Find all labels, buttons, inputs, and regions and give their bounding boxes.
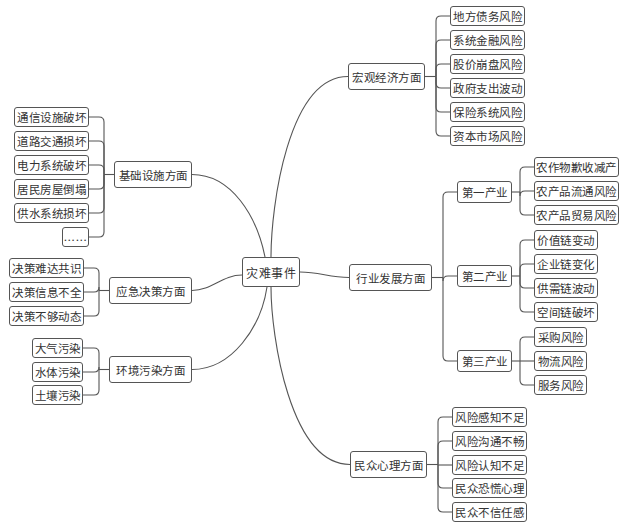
branch-macro-economy[interactable]: 宏观经济方面: [348, 63, 425, 90]
sub-branch-node[interactable]: 第三产业: [457, 350, 512, 372]
leaf-node[interactable]: 居民房屋倒塌: [14, 179, 89, 199]
leaf-node[interactable]: 保险系统风险: [450, 102, 525, 122]
leaf-node[interactable]: 电力系统破坏: [14, 155, 89, 175]
leaf-node[interactable]: 采购风险: [534, 327, 587, 347]
leaf-node[interactable]: 水体污染: [32, 362, 83, 382]
leaf-node[interactable]: 系统金融风险: [450, 30, 525, 50]
branch-public-psychology[interactable]: 民众心理方面: [350, 451, 427, 478]
leaf-node[interactable]: 决策信息不全: [9, 282, 84, 302]
leaf-node[interactable]: 服务风险: [534, 375, 587, 395]
leaf-node[interactable]: 农作物歉收减产: [534, 157, 619, 177]
leaf-node[interactable]: ……: [62, 227, 89, 247]
sub-branch-node[interactable]: 第二产业: [457, 265, 512, 287]
leaf-node[interactable]: 风险认知不足: [452, 455, 527, 475]
leaf-node[interactable]: 政府支出波动: [450, 78, 525, 98]
leaf-node[interactable]: 物流风险: [534, 351, 587, 371]
leaf-node[interactable]: 供水系统损坏: [14, 203, 89, 223]
sub-branch-node[interactable]: 第一产业: [457, 181, 512, 203]
leaf-node[interactable]: 决策难达共识: [9, 258, 84, 278]
leaf-node[interactable]: 大气污染: [32, 338, 83, 358]
leaf-node[interactable]: 农产品贸易风险: [534, 205, 619, 225]
leaf-node[interactable]: 地方债务风险: [450, 6, 525, 26]
leaf-node[interactable]: 企业链变化: [534, 254, 598, 274]
leaf-node[interactable]: 供需链波动: [534, 278, 598, 298]
leaf-node[interactable]: 民众不信任感: [452, 502, 527, 522]
branch-industry[interactable]: 行业发展方面: [349, 264, 432, 291]
leaf-node[interactable]: 空间链破坏: [534, 302, 598, 322]
leaf-node[interactable]: 风险沟通不畅: [452, 431, 527, 451]
branch-environment[interactable]: 环境污染方面: [109, 356, 192, 383]
leaf-node[interactable]: 风险感知不足: [452, 407, 527, 427]
leaf-node[interactable]: 股价崩盘风险: [450, 54, 525, 74]
leaf-node[interactable]: 农产品流通风险: [534, 181, 619, 201]
leaf-node[interactable]: 道路交通损坏: [14, 131, 89, 151]
leaf-node[interactable]: 资本市场风险: [450, 126, 525, 146]
leaf-node[interactable]: 土壤污染: [32, 385, 83, 405]
leaf-node[interactable]: 民众恐慌心理: [452, 478, 527, 498]
central-topic-disaster-event[interactable]: 灾难事件: [242, 257, 300, 287]
branch-infrastructure[interactable]: 基础设施方面: [114, 161, 192, 188]
leaf-node[interactable]: 决策不够动态: [9, 306, 84, 326]
leaf-node[interactable]: 价值链变动: [534, 230, 598, 250]
branch-emergency-decision[interactable]: 应急决策方面: [109, 277, 192, 304]
leaf-node[interactable]: 通信设施破坏: [14, 107, 89, 127]
